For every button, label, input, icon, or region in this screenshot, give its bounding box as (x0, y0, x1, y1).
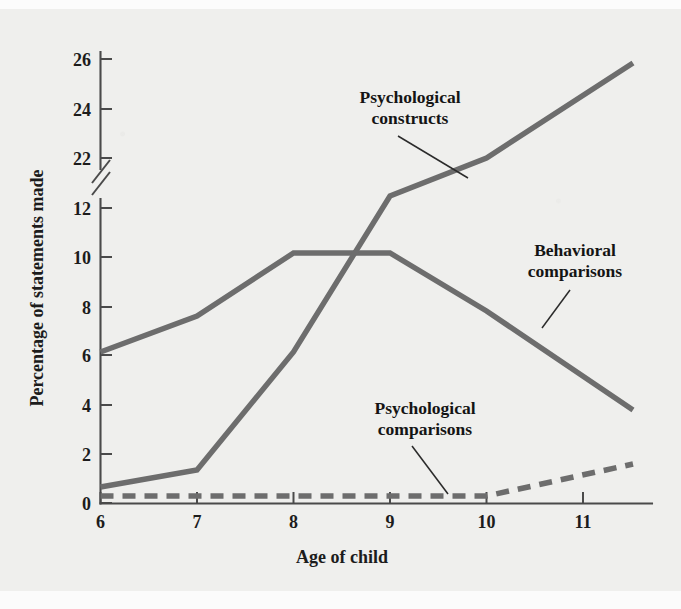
annot-psych-comparisons-line1: Psychological (374, 398, 475, 418)
annotation-behavioral-comparisons: Behavioral comparisons (528, 240, 623, 328)
x-tick-label-6: 6 (96, 512, 105, 532)
annotation-psychological-constructs: Psychological constructs (359, 87, 468, 178)
y-tick-label-6: 6 (82, 346, 91, 366)
y-tick-label-26: 26 (73, 50, 91, 70)
x-axis-title: Age of child (296, 547, 388, 567)
y-axis-ticks (101, 59, 113, 503)
x-tick-label-10: 10 (478, 512, 496, 532)
annot-behavioral-line2: comparisons (528, 261, 623, 281)
annot-behavioral-line1: Behavioral (534, 240, 616, 260)
chart-figure: 26 24 22 12 10 8 6 4 2 0 6 7 8 9 10 11 A… (0, 0, 681, 609)
y-tick-label-8: 8 (82, 298, 91, 318)
annot-psych-comparisons-line2: comparisons (378, 419, 473, 439)
annot-psych-constructs-line1: Psychological (359, 87, 460, 107)
y-tick-label-12: 12 (73, 199, 91, 219)
y-axis-title: Percentage of statements made (27, 169, 47, 406)
y-tick-label-0: 0 (82, 494, 91, 514)
y-tick-label-24: 24 (73, 100, 91, 120)
annot-psych-comparisons-leader (412, 446, 448, 494)
annot-psych-constructs-line2: constructs (372, 108, 449, 128)
y-tick-label-2: 2 (82, 445, 91, 465)
line-chart-canvas: 26 24 22 12 10 8 6 4 2 0 6 7 8 9 10 11 A… (0, 0, 681, 609)
x-tick-label-11: 11 (574, 512, 591, 532)
x-axis-tick-labels: 6 7 8 9 10 11 (96, 512, 592, 532)
series-psychological-comparisons (101, 464, 634, 496)
y-tick-label-22: 22 (73, 149, 91, 169)
annotation-psychological-comparisons: Psychological comparisons (374, 398, 475, 494)
y-tick-label-10: 10 (73, 248, 91, 268)
annot-psych-constructs-leader (398, 136, 468, 178)
y-axis-tick-labels: 26 24 22 12 10 8 6 4 2 0 (73, 50, 91, 514)
x-tick-label-8: 8 (289, 512, 298, 532)
x-tick-label-7: 7 (193, 512, 202, 532)
y-tick-label-4: 4 (82, 396, 91, 416)
annot-behavioral-leader (542, 290, 570, 328)
x-tick-label-9: 9 (386, 512, 395, 532)
